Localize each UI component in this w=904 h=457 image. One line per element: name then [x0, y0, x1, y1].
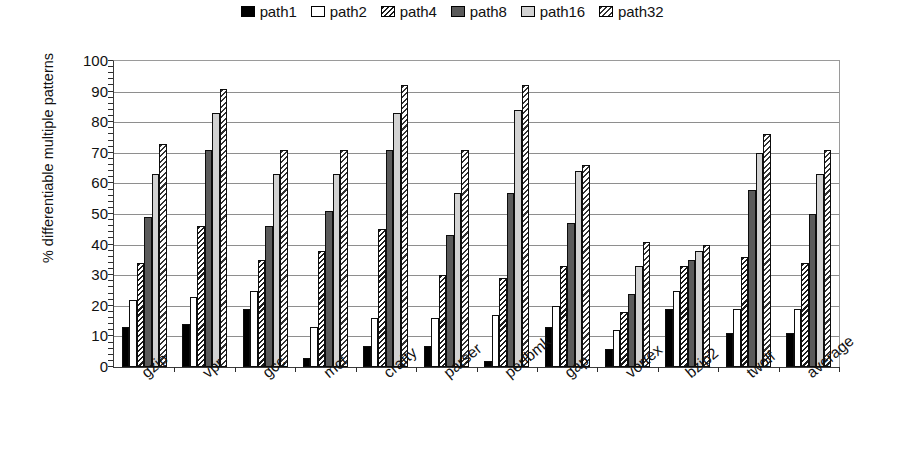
y-tick-label: 50: [91, 206, 108, 221]
legend-swatch-path2-icon: [311, 6, 325, 17]
bar-group: [114, 61, 174, 367]
bar-vpr-path16: [212, 113, 220, 367]
legend-item-path2: path2: [311, 4, 367, 19]
bar-vpr-path8: [205, 150, 213, 367]
y-tick-label: 0: [100, 359, 108, 374]
plot-area: [113, 60, 840, 368]
bar-perlbmk-path32: [522, 85, 530, 367]
bar-mcf-path2: [310, 327, 318, 367]
legend-swatch-path16-icon: [521, 6, 535, 17]
bar-gcc-path4: [258, 260, 266, 367]
chart-legend: path1 path2 path4 path8 path16 path32: [0, 4, 904, 19]
bar-twolf-path16: [756, 153, 764, 367]
bar-twolf-path2: [733, 309, 741, 367]
x-axis-tick: [839, 367, 840, 372]
legend-item-path16: path16: [521, 4, 585, 19]
bar-vpr-path2: [190, 297, 198, 367]
bar-perlbmk-path2: [492, 315, 500, 367]
bar-group: [235, 61, 295, 367]
legend-item-path4: path4: [381, 4, 437, 19]
bar-mcf-path8: [325, 211, 333, 367]
bar-vpr-path1: [182, 324, 190, 367]
bar-average-path32: [824, 150, 832, 367]
y-tick-label: 30: [91, 267, 108, 282]
bar-group: [658, 61, 718, 367]
bar-group: [295, 61, 355, 367]
bar-crafty-path4: [378, 229, 386, 367]
legend-swatch-path4-icon: [381, 6, 395, 17]
bar-bzip2-path2: [673, 291, 681, 368]
bar-bzip2-path1: [665, 309, 673, 367]
bar-parser-path32: [461, 150, 469, 367]
bar-vpr-path32: [220, 89, 228, 367]
bar-mcf-path1: [303, 358, 311, 367]
bar-gcc-path32: [280, 150, 288, 367]
legend-label-path8: path8: [470, 4, 507, 19]
bar-twolf-path1: [726, 333, 734, 367]
bar-perlbmk-path16: [514, 110, 522, 367]
legend-label-path4: path4: [400, 4, 437, 19]
bar-parser-path16: [454, 193, 462, 367]
bar-group: [416, 61, 476, 367]
bar-mcf-path16: [333, 174, 341, 367]
bar-vortex-path1: [605, 349, 613, 367]
bar-vortex-path2: [613, 330, 621, 367]
legend-label-path1: path1: [260, 4, 297, 19]
bar-group: [597, 61, 657, 367]
bar-gap-path8: [567, 223, 575, 367]
y-tick-label: 20: [91, 297, 108, 312]
bar-twolf-path8: [748, 190, 756, 367]
bars-layer: [114, 61, 839, 367]
legend-item-path8: path8: [451, 4, 507, 19]
bar-crafty-path32: [401, 85, 409, 367]
y-tick-label: 10: [91, 328, 108, 343]
bar-group: [174, 61, 234, 367]
bar-group: [356, 61, 416, 367]
bar-perlbmk-path1: [484, 361, 492, 367]
bar-vpr-path4: [197, 226, 205, 367]
bar-twolf-path4: [741, 257, 749, 367]
bar-gzip-path16: [152, 174, 160, 367]
bar-gcc-path1: [243, 309, 251, 367]
legend-swatch-path1-icon: [241, 6, 255, 17]
bar-vortex-path8: [628, 294, 636, 367]
legend-swatch-path8-icon: [451, 6, 465, 17]
legend-swatch-path32-icon: [599, 6, 613, 17]
bar-twolf-path32: [763, 134, 771, 367]
bar-average-path2: [794, 309, 802, 367]
legend-item-path1: path1: [241, 4, 297, 19]
bar-group: [718, 61, 778, 367]
bar-gap-path32: [582, 165, 590, 367]
bar-group: [779, 61, 839, 367]
bar-bzip2-path8: [688, 260, 696, 367]
bar-parser-path1: [424, 346, 432, 367]
bar-vortex-path4: [620, 312, 628, 367]
x-axis-tick-labels: gzipvprgccmcfcraftyparserperlbmkgapvorte…: [113, 368, 838, 457]
bar-mcf-path4: [318, 251, 326, 367]
bar-parser-path4: [439, 275, 447, 367]
bar-gap-path16: [575, 171, 583, 367]
bar-perlbmk-path4: [499, 278, 507, 367]
y-tick-label: 70: [91, 144, 108, 159]
bar-bzip2-path4: [680, 266, 688, 367]
legend-label-path2: path2: [330, 4, 367, 19]
bar-gzip-path8: [144, 217, 152, 367]
bar-average-path16: [816, 174, 824, 367]
y-axis-tick-labels: 0102030405060708090100: [70, 50, 108, 376]
bar-crafty-path1: [363, 346, 371, 367]
bar-gzip-path2: [129, 300, 137, 367]
bar-perlbmk-path8: [507, 193, 515, 367]
bar-parser-path8: [446, 235, 454, 367]
bar-group: [537, 61, 597, 367]
bar-parser-path2: [431, 318, 439, 367]
bar-gcc-path16: [273, 174, 281, 367]
y-axis-title: % differentiable multiple patterns: [40, 18, 56, 298]
y-tick-label: 100: [83, 53, 108, 68]
bar-gzip-path1: [122, 327, 130, 367]
legend-item-path32: path32: [599, 4, 663, 19]
bar-gap-path2: [552, 306, 560, 367]
legend-label-path32: path32: [618, 4, 663, 19]
bar-crafty-path8: [386, 150, 394, 367]
bar-gzip-path32: [159, 144, 167, 367]
legend-label-path16: path16: [540, 4, 585, 19]
